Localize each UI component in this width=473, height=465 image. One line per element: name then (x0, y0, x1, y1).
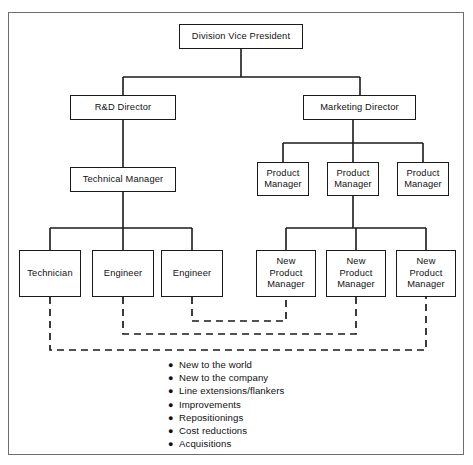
node-product-manager-1: Product Manager (257, 162, 309, 196)
list-item-label: New to the world (179, 358, 252, 371)
node-division-vice-president: Division Vice President (179, 24, 303, 49)
list-item-label: Repositionings (179, 411, 243, 424)
list-item-label: Line extensions/flankers (179, 384, 284, 397)
node-product-manager-2: Product Manager (327, 162, 379, 196)
bullet-dot-icon: ● (168, 385, 179, 398)
list-item: ●Cost reductions (168, 424, 398, 437)
bullet-dot-icon: ● (168, 412, 179, 425)
organization-chart-figure: Division Vice PresidentR&D DirectorMarke… (0, 0, 473, 465)
node-product-manager-3: Product Manager (397, 162, 449, 196)
list-item: ●Line extensions/flankers (168, 384, 398, 397)
solid-connector-group (50, 49, 426, 250)
node-technician: Technician (19, 250, 81, 297)
node-new-product-manager-1: New Product Manager (256, 250, 316, 297)
node-engineer-1: Engineer (92, 250, 154, 297)
product-category-list: ●New to the world●New to the company●Lin… (168, 358, 398, 450)
node-rd-director: R&D Director (70, 95, 176, 120)
list-item: ●Acquisitions (168, 437, 398, 450)
node-new-product-manager-2: New Product Manager (326, 250, 386, 297)
node-engineer-2: Engineer (161, 250, 223, 297)
bullet-dot-icon: ● (168, 425, 179, 438)
list-item: ●Improvements (168, 398, 398, 411)
bullet-dot-icon: ● (168, 372, 179, 385)
bullet-dot-icon: ● (168, 399, 179, 412)
bullet-dot-icon: ● (168, 359, 179, 372)
node-new-product-manager-3: New Product Manager (396, 250, 456, 297)
list-item-label: Improvements (179, 398, 241, 411)
node-marketing-director: Marketing Director (303, 95, 416, 120)
list-item-label: New to the company (179, 371, 268, 384)
list-item: ●New to the world (168, 358, 398, 371)
list-item: ●New to the company (168, 371, 398, 384)
node-technical-manager: Technical Manager (70, 167, 176, 192)
bullet-dot-icon: ● (168, 438, 179, 451)
engineer2-to-npm1-dashed-connector (192, 297, 286, 321)
engineer1-to-npm2-dashed-connector (123, 297, 356, 334)
dashed-connector-group (50, 297, 426, 350)
list-item: ●Repositionings (168, 411, 398, 424)
list-item-label: Acquisitions (179, 437, 231, 450)
list-item-label: Cost reductions (179, 424, 247, 437)
technician-to-npm3-dashed-connector (50, 297, 426, 350)
